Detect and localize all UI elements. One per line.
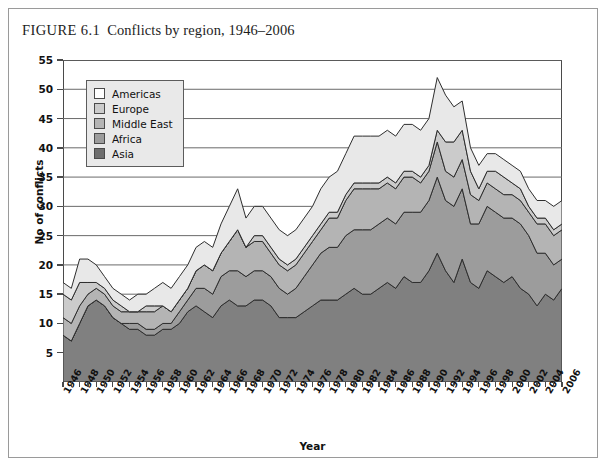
legend-label: Middle East	[112, 118, 173, 130]
figure-number: FIGURE 6.1	[22, 22, 100, 38]
figure-page: FIGURE 6.1Conflicts by region, 1946–2006…	[0, 0, 609, 468]
y-axis-title: No of conflicts	[33, 142, 45, 262]
legend-item-africa: Africa	[94, 131, 173, 146]
legend-swatch-icon	[94, 118, 105, 129]
figure-caption: FIGURE 6.1Conflicts by region, 1946–2006	[22, 22, 295, 39]
figure-caption-text: Conflicts by region, 1946–2006	[107, 22, 294, 38]
legend-swatch-icon	[94, 148, 105, 159]
chart-legend: AmericasEuropeMiddle EastAfricaAsia	[86, 80, 184, 167]
legend-swatch-icon	[94, 88, 105, 99]
legend-item-middle-east: Middle East	[94, 116, 173, 131]
legend-item-americas: Americas	[94, 86, 173, 101]
legend-swatch-icon	[94, 133, 105, 144]
x-axis-title: Year	[63, 440, 562, 452]
legend-label: Africa	[112, 133, 142, 145]
legend-item-europe: Europe	[94, 101, 173, 116]
legend-item-asia: Asia	[94, 146, 173, 161]
legend-label: Europe	[112, 103, 149, 115]
legend-label: Americas	[112, 88, 161, 100]
legend-label: Asia	[112, 148, 134, 160]
legend-swatch-icon	[94, 103, 105, 114]
